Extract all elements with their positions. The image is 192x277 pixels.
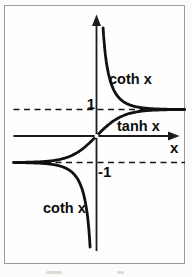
- caption-fragment: [46, 271, 62, 274]
- tick-label-pos1: 1: [87, 95, 95, 112]
- origin-open-point: [94, 134, 98, 138]
- label-coth-lower: coth x: [43, 200, 86, 216]
- hyperbolic-functions-plot: coth x tanh x coth x 1 -1 x: [0, 0, 192, 277]
- label-coth-upper: coth x: [109, 71, 152, 87]
- y-axis-arrow-icon: [92, 15, 101, 27]
- caption-fragment: [117, 271, 124, 274]
- label-tanh: tanh x: [117, 118, 160, 134]
- x-axis-label: x: [170, 139, 179, 156]
- curve-coth-positive-branch: [103, 28, 185, 110]
- tick-label-neg1: -1: [98, 163, 111, 180]
